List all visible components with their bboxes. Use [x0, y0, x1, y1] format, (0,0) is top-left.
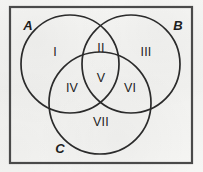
set-label-a: A [23, 19, 33, 32]
region-label-vii: VII [93, 116, 109, 129]
region-label-vi: VI [124, 82, 136, 95]
set-a-circle [21, 15, 119, 113]
region-label-iv: IV [66, 82, 78, 95]
universal-set-rectangle [10, 7, 192, 163]
set-label-c: C [55, 142, 65, 155]
set-label-b: B [173, 19, 183, 32]
region-label-v: V [97, 72, 106, 85]
venn-diagram-figure: A B C I II III IV V VI VII [0, 0, 203, 172]
set-b-circle [82, 15, 180, 113]
region-label-iii: III [140, 46, 151, 59]
region-label-ii: II [97, 42, 104, 55]
region-label-i: I [53, 46, 57, 59]
